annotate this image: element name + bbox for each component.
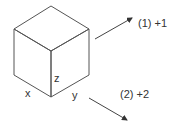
arrow-2-label: (2) +2: [120, 88, 149, 100]
cube-top-face: [14, 6, 89, 51]
arrow-1-label: (1) +1: [138, 17, 167, 29]
cube-diagram: z x y (1) +1 (2) +2: [0, 0, 175, 129]
cube-right-face: [51, 29, 89, 97]
cube: [14, 6, 89, 97]
axis-label-x: x: [25, 87, 31, 99]
arrow-1: [95, 18, 132, 39]
cube-left-face: [14, 29, 51, 97]
arrow-2: [89, 98, 127, 120]
axis-label-z: z: [54, 72, 60, 84]
axis-label-y: y: [72, 89, 78, 101]
